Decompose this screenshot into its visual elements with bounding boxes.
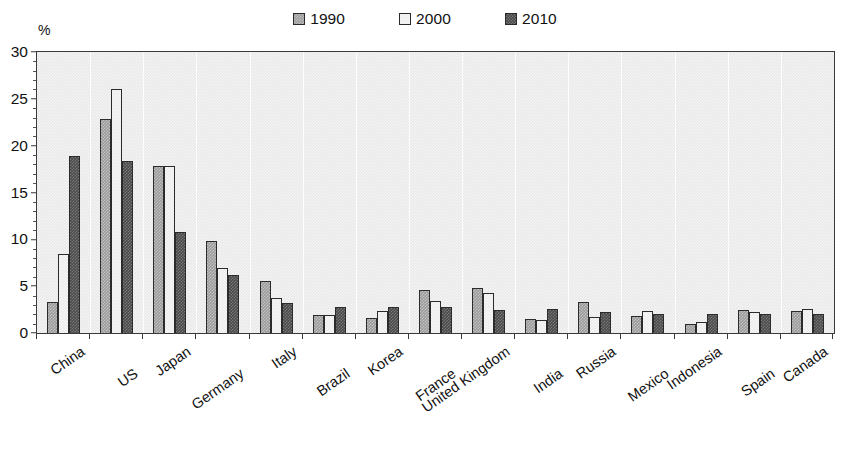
bar-group-brazil[interactable]: [303, 52, 356, 333]
bar-france-2000[interactable]: [430, 301, 441, 333]
bar-group-canada[interactable]: [781, 52, 834, 333]
y-axis-tick-30: 30: [11, 44, 36, 60]
bar-united-kingdom-2010[interactable]: [494, 310, 505, 333]
x-axis-label-spain: Spain: [739, 366, 778, 399]
bar-india-2010[interactable]: [547, 309, 558, 333]
chart-legend: 199020002010: [0, 6, 850, 32]
bar-united-kingdom-2000[interactable]: [483, 293, 494, 333]
y-axis-tick-20: 20: [11, 138, 36, 154]
bar-group-china[interactable]: [37, 52, 90, 333]
bars-layer: [37, 52, 834, 333]
bar-italy-2000[interactable]: [271, 298, 282, 333]
bar-group-germany[interactable]: [196, 52, 249, 333]
bar-indonesia-2010[interactable]: [707, 314, 718, 333]
x-axis-tick-mark: [89, 334, 90, 339]
bar-group-mexico[interactable]: [621, 52, 674, 333]
bar-group-france[interactable]: [409, 52, 462, 333]
bar-korea-1990[interactable]: [366, 318, 377, 333]
x-axis-label-russia: Russia: [574, 344, 619, 381]
bar-russia-2000[interactable]: [589, 317, 600, 333]
bar-japan-2010[interactable]: [175, 232, 186, 333]
x-axis-tick-mark: [727, 334, 728, 339]
bar-group-russia[interactable]: [568, 52, 621, 333]
y-axis: 051015202530: [0, 51, 36, 334]
x-axis-tick-mark: [461, 334, 462, 339]
bar-mexico-2010[interactable]: [653, 314, 664, 333]
bar-canada-2000[interactable]: [802, 309, 813, 333]
legend-swatch-2010-icon: [505, 13, 517, 25]
bar-korea-2000[interactable]: [377, 311, 388, 333]
bar-canada-1990[interactable]: [791, 311, 802, 333]
bar-group-japan[interactable]: [143, 52, 196, 333]
bar-indonesia-2000[interactable]: [696, 322, 707, 333]
bar-mexico-1990[interactable]: [631, 316, 642, 333]
legend-entry-2010[interactable]: 2010: [505, 11, 557, 27]
bar-japan-1990[interactable]: [153, 166, 164, 333]
x-axis-label-india: India: [531, 366, 565, 396]
x-axis-tick-mark: [302, 334, 303, 339]
x-axis-tick-mark: [620, 334, 621, 339]
x-axis-label-us: US: [115, 366, 140, 389]
bar-india-1990[interactable]: [525, 319, 536, 333]
bar-group-united-kingdom[interactable]: [462, 52, 515, 333]
bar-group-italy[interactable]: [250, 52, 303, 333]
bar-china-2010[interactable]: [69, 156, 80, 333]
bar-russia-2010[interactable]: [600, 312, 611, 333]
bar-group-india[interactable]: [515, 52, 568, 333]
bar-spain-1990[interactable]: [738, 310, 749, 333]
y-axis-unit-label: %: [38, 22, 50, 38]
bar-russia-1990[interactable]: [578, 302, 589, 333]
bar-china-2000[interactable]: [58, 254, 69, 333]
x-axis-tick-mark: [195, 334, 196, 339]
bar-group-us[interactable]: [90, 52, 143, 333]
bar-united-kingdom-1990[interactable]: [472, 288, 483, 333]
y-axis-tick-label: 25: [11, 91, 28, 107]
x-axis-tick-mark: [832, 334, 833, 339]
bar-italy-1990[interactable]: [260, 281, 271, 333]
bar-group-spain[interactable]: [728, 52, 781, 333]
y-axis-tick-25: 25: [11, 91, 36, 107]
bar-indonesia-1990[interactable]: [685, 324, 696, 333]
y-axis-tick-0: 0: [19, 325, 36, 341]
x-axis-label-japan: Japan: [152, 344, 193, 379]
x-axis-tick-mark: [355, 334, 356, 339]
bar-canada-2010[interactable]: [813, 314, 824, 333]
y-axis-tick-label: 0: [19, 325, 28, 341]
x-axis-label-germany: Germany: [189, 366, 246, 412]
bar-brazil-1990[interactable]: [313, 315, 324, 333]
bar-group-korea[interactable]: [356, 52, 409, 333]
bar-japan-2000[interactable]: [164, 166, 175, 333]
bar-group-indonesia[interactable]: [675, 52, 728, 333]
y-axis-tick-15: 15: [11, 185, 36, 201]
bar-us-2010[interactable]: [122, 161, 133, 333]
x-axis-tick-mark: [142, 334, 143, 339]
legend-entry-1990[interactable]: 1990: [293, 11, 345, 27]
bar-germany-2000[interactable]: [217, 268, 228, 333]
y-axis-tick-10: 10: [11, 232, 36, 248]
bar-us-2000[interactable]: [111, 89, 122, 333]
bar-germany-2010[interactable]: [228, 275, 239, 333]
bar-spain-2010[interactable]: [760, 314, 771, 333]
legend-entry-2000[interactable]: 2000: [399, 11, 451, 27]
x-axis-tick-mark: [567, 334, 568, 339]
x-axis-label-china: China: [47, 344, 86, 378]
bar-india-2000[interactable]: [536, 320, 547, 333]
x-axis-tick-mark: [36, 334, 37, 339]
x-axis-label-brazil: Brazil: [314, 366, 352, 399]
bar-germany-1990[interactable]: [206, 241, 217, 333]
bar-mexico-2000[interactable]: [642, 311, 653, 333]
x-axis-tick-mark: [249, 334, 250, 339]
bar-korea-2010[interactable]: [388, 307, 399, 333]
bar-france-2010[interactable]: [441, 307, 452, 333]
bar-china-1990[interactable]: [47, 302, 58, 333]
legend-label: 2010: [522, 11, 557, 27]
bar-france-1990[interactable]: [419, 290, 430, 333]
x-axis-labels: ChinaUSJapanGermanyItalyBrazilKoreaFranc…: [36, 340, 835, 460]
bar-spain-2000[interactable]: [749, 312, 760, 333]
bar-italy-2010[interactable]: [282, 303, 293, 333]
x-axis-tick-mark: [408, 334, 409, 339]
bar-us-1990[interactable]: [100, 119, 111, 333]
bar-brazil-2010[interactable]: [335, 307, 346, 333]
bar-brazil-2000[interactable]: [324, 315, 335, 333]
legend-swatch-2000-icon: [399, 13, 411, 25]
